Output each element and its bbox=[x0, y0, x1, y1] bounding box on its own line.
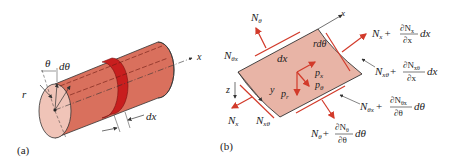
force-N-theta-x: Nθx bbox=[223, 49, 239, 63]
axis-y-label: y bbox=[269, 84, 275, 95]
svg-text:Nxθ+: Nxθ+ bbox=[374, 65, 396, 79]
force-N-theta-plus: Nθ+ ∂Nθ ∂θ dθ bbox=[310, 122, 367, 145]
cylinder-figure bbox=[39, 42, 192, 138]
svg-text:∂Nθx: ∂Nθx bbox=[390, 95, 407, 106]
force-N-theta-x-plus: Nθx+ ∂Nθx ∂θ dθ bbox=[359, 95, 426, 118]
force-N-x-theta: Nxθ bbox=[255, 114, 270, 128]
axis-x-label: x bbox=[340, 8, 345, 18]
dx-element-label: dx bbox=[277, 52, 288, 64]
d-theta-label: dθ bbox=[59, 60, 71, 72]
svg-text:∂Nxθ: ∂Nxθ bbox=[403, 60, 420, 71]
r-dtheta-label: rdθ bbox=[313, 38, 327, 49]
caption-a: (a) bbox=[17, 144, 30, 157]
svg-text:Nθx+: Nθx+ bbox=[359, 100, 382, 114]
r-label: r bbox=[22, 88, 27, 100]
theta-label: θ bbox=[45, 57, 51, 69]
force-N-x: Nx bbox=[227, 114, 239, 128]
svg-text:dθ: dθ bbox=[355, 127, 367, 139]
svg-text:∂Nx: ∂Nx bbox=[400, 23, 414, 34]
force-N-x-plus: Nx+ ∂Nx ∂x dx bbox=[371, 23, 431, 45]
svg-text:∂x: ∂x bbox=[407, 73, 416, 83]
axis-z-label: z bbox=[225, 84, 230, 95]
svg-text:∂Nθ: ∂Nθ bbox=[335, 122, 349, 133]
cylinder-body bbox=[55, 42, 174, 138]
force-N-theta: Nθ bbox=[250, 11, 262, 25]
shell-element-figure bbox=[232, 15, 375, 118]
diagram-canvas: θ dθ r dx x (a) x y z dx rdθ px pθ bbox=[0, 0, 452, 163]
shell-element bbox=[238, 29, 362, 117]
x-axis-label: x bbox=[196, 51, 202, 62]
svg-text:Nθ+: Nθ+ bbox=[310, 127, 329, 141]
caption-b: (b) bbox=[220, 140, 233, 153]
svg-text:Nx+: Nx+ bbox=[371, 27, 391, 41]
svg-text:∂θ: ∂θ bbox=[394, 108, 403, 118]
force-N-x-theta-plus: Nxθ+ ∂Nxθ ∂x dx bbox=[374, 60, 438, 83]
svg-text:dx: dx bbox=[427, 65, 438, 77]
dx-label: dx bbox=[146, 110, 157, 122]
svg-text:∂x: ∂x bbox=[403, 35, 412, 45]
svg-text:dx: dx bbox=[420, 27, 431, 39]
svg-text:dθ: dθ bbox=[414, 100, 426, 112]
svg-text:∂θ: ∂θ bbox=[338, 135, 347, 145]
